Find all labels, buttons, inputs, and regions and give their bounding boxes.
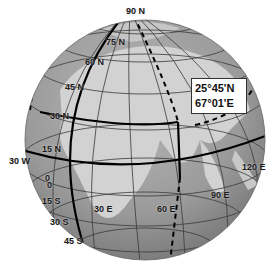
longitude-label-lon-30e: 30 E — [94, 205, 113, 214]
globe-illustration — [0, 0, 277, 268]
latitude-label-lat-45s: 45 S — [64, 237, 83, 246]
longitude-label-lon-90e: 90 E — [211, 191, 230, 200]
latitude-label-lat-90n: 90 N — [126, 7, 145, 16]
latitude-label-lat-45n: 45 N — [65, 83, 84, 92]
coordinate-latitude: 25°45'N — [195, 81, 243, 96]
latitude-label-lat-75n: 75 N — [106, 38, 125, 47]
longitude-label-lon-60e: 60 E — [157, 205, 176, 214]
latitude-label-lat-30n: 30 N — [50, 112, 69, 121]
latitude-label-lat-0b: 0 — [47, 181, 52, 190]
longitude-label-lon-120e: 120 E — [242, 163, 266, 172]
latitude-label-lat-15n: 15 N — [42, 145, 61, 154]
longitude-label-lon-30w: 30 W — [9, 157, 30, 166]
coordinate-longitude: 67°01'E — [195, 96, 243, 111]
latitude-label-lat-15s: 15 S — [42, 197, 61, 206]
coordinate-box: 25°45'N 67°01'E — [191, 78, 247, 114]
latitude-label-lat-60n: 60 N — [85, 58, 104, 67]
latitude-label-lat-30s: 30 S — [50, 218, 69, 227]
